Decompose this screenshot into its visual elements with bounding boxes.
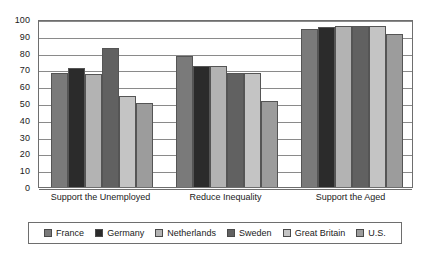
y-tick-label: 40 [20,116,30,125]
y-tick-label: 20 [20,150,30,159]
legend-item[interactable]: Great Britain [283,228,346,238]
bar [176,56,193,187]
bar [335,26,352,187]
y-tick-label: 70 [20,66,30,75]
bar [227,73,244,187]
legend-item[interactable]: France [44,228,84,238]
bar [68,68,85,187]
plot-area [38,20,413,188]
legend-label: Netherlands [167,228,216,238]
y-axis: 0102030405060708090100 [0,20,34,188]
bar [51,73,68,187]
legend-item[interactable]: Sweden [227,228,272,238]
legend-swatch-icon [283,229,291,237]
legend-swatch-icon [155,229,163,237]
bar [318,27,335,187]
y-tick-label: 60 [20,83,30,92]
y-tick-label: 30 [20,133,30,142]
chart-legend: FranceGermanyNetherlandsSwedenGreat Brit… [28,222,402,244]
y-tick-label: 10 [20,167,30,176]
bars-layer [39,21,412,187]
legend-item[interactable]: Germany [95,228,144,238]
bar [193,66,210,187]
bar [210,66,227,187]
category-label: Reduce Inequality [189,191,261,203]
legend-label: Sweden [239,228,272,238]
y-tick-label: 90 [20,32,30,41]
bar [369,26,386,187]
legend-item[interactable]: U.S. [356,228,386,238]
legend-swatch-icon [356,229,364,237]
y-tick-label: 0 [25,184,30,193]
category-label: Support the Aged [316,191,386,203]
y-tick-label: 80 [20,49,30,58]
legend-label: Great Britain [295,228,346,238]
legend-item[interactable]: Netherlands [155,228,216,238]
y-tick-label: 100 [15,16,30,25]
bar [102,48,119,187]
bar [136,103,153,187]
category-label: Support the Unemployed [51,191,151,203]
bar-group [164,21,289,187]
legend-swatch-icon [95,229,103,237]
legend-label: France [56,228,84,238]
bar [244,73,261,187]
x-axis-category-labels: Support the UnemployedReduce InequalityS… [38,191,413,205]
bar [301,29,318,187]
bar [261,101,278,187]
bar-group [289,21,414,187]
bar-group [39,21,164,187]
legend-label: Germany [107,228,144,238]
legend-swatch-icon [44,229,52,237]
legend-label: U.S. [368,228,386,238]
legend-swatch-icon [227,229,235,237]
gridline-0 [39,189,412,190]
grouped-bar-chart: 0102030405060708090100 Support the Unemp… [0,0,428,254]
y-tick-label: 50 [20,100,30,109]
bar [386,34,403,187]
bar [85,74,102,187]
bar [352,26,369,187]
bar [119,96,136,187]
